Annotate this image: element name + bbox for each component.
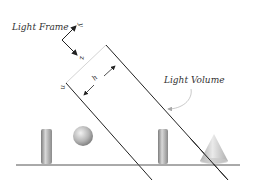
- y-axis-label: y: [77, 22, 85, 28]
- light-volume-pointer-arrow: [168, 89, 191, 109]
- cylinder-left: [41, 129, 52, 164]
- light-volume-label: Light Volume: [163, 75, 225, 85]
- cylinder-right: [158, 129, 168, 164]
- sphere: [73, 126, 93, 146]
- h-dimension: h: [84, 66, 115, 95]
- h-arrow-left: [84, 85, 94, 95]
- light-frame-label: Light Frame: [11, 22, 69, 32]
- z-axis-label: z: [78, 55, 86, 60]
- n-label: n: [59, 85, 67, 90]
- h-arrow-right: [104, 66, 115, 76]
- cone: [200, 134, 228, 164]
- z-axis-arrow: [62, 40, 77, 55]
- h-label: h: [91, 74, 100, 83]
- light-volume-diagram: Light Frame y z h n Light Volume: [0, 0, 254, 186]
